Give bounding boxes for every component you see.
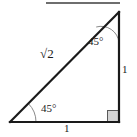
side-label-bottom: 1: [64, 123, 70, 134]
radical-sign-icon: √: [40, 47, 47, 60]
triangle-svg: [0, 0, 137, 137]
radicand-label: 2: [47, 46, 54, 61]
right-angle-marker: [108, 111, 119, 122]
hypotenuse-label: √2: [40, 47, 54, 60]
side-label-right: 1: [122, 64, 128, 75]
angle-label-top: 45°: [88, 36, 103, 47]
triangle-figure: √2 45° 45° 1 1: [0, 0, 137, 137]
angle-label-bottom: 45°: [41, 103, 56, 114]
